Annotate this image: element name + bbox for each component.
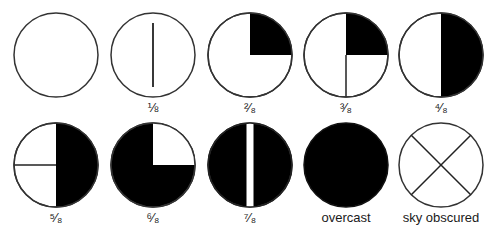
symbol-overcast: overcast: [298, 121, 394, 231]
seven-eighths-cover-icon: [206, 121, 294, 209]
sky-cover-diagram: ⅛ ²⁄₈ ³⁄₈ ⁴⁄₈ ⁵: [0, 0, 500, 234]
symbol-label: sky obscured: [393, 210, 489, 226]
one-eighth-cover-icon: [109, 11, 197, 99]
symbol-four-eighths: ⁴⁄₈: [393, 11, 489, 121]
symbol-sky-obscured: sky obscured: [393, 121, 489, 231]
symbol-six-eighths: ⁶⁄₈: [105, 121, 201, 231]
symbol-label: ⁶⁄₈: [105, 210, 201, 226]
symbol-label: ⁵⁄₈: [8, 210, 104, 226]
symbol-label: ⁷⁄₈: [202, 210, 298, 226]
symbol-label: overcast: [298, 210, 394, 226]
four-eighths-cover-icon: [397, 11, 485, 99]
symbol-five-eighths: ⁵⁄₈: [8, 121, 104, 231]
symbol-label: ²⁄₈: [202, 100, 298, 116]
sky-obscured-icon: [397, 121, 485, 209]
five-eighths-cover-icon: [12, 121, 100, 209]
overcast-icon: [302, 121, 390, 209]
two-eighths-cover-icon: [206, 11, 294, 99]
symbol-label: ³⁄₈: [298, 100, 394, 116]
symbol-seven-eighths: ⁷⁄₈: [202, 121, 298, 231]
six-eighths-cover-icon: [109, 121, 197, 209]
three-eighths-cover-icon: [302, 11, 390, 99]
symbol-three-eighths: ³⁄₈: [298, 11, 394, 121]
symbol-label: ⅛: [105, 100, 201, 116]
clear-sky-icon: [12, 11, 100, 99]
symbol-label: ⁴⁄₈: [393, 100, 489, 116]
symbol-two-eighths: ²⁄₈: [202, 11, 298, 121]
symbol-one-eighth: ⅛: [105, 11, 201, 121]
symbol-clear: [8, 11, 104, 121]
